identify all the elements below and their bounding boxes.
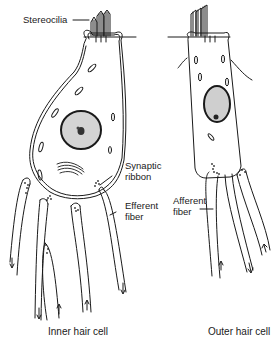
inner-synapses	[24, 180, 100, 254]
label-synaptic-ribbon-line1: Synaptic	[125, 161, 161, 171]
label-stereocilia: Stereocilia	[23, 15, 67, 25]
label-afferent-fiber-line2: fiber	[173, 207, 191, 217]
inner-nucleus	[61, 111, 101, 149]
outer-hair-cell	[168, 5, 270, 278]
label-efferent-fiber-line1: Efferent	[125, 201, 158, 211]
outer-nucleus	[204, 86, 230, 122]
inner-fibers	[10, 178, 126, 320]
outer-stereocilia	[191, 5, 215, 42]
hair-cell-diagram: Stereocilia Synaptic ribbon Efferent fib…	[0, 0, 278, 346]
caption-inner-hair-cell: Inner hair cell	[48, 326, 108, 337]
outer-fibers	[206, 169, 270, 278]
inner-arrows	[10, 258, 125, 319]
caption-outer-hair-cell: Outer hair cell	[208, 326, 270, 337]
inner-hair-cell	[10, 10, 136, 320]
label-efferent-fiber-line2: fiber	[125, 212, 143, 222]
label-afferent-fiber-line1: Afferent	[173, 196, 206, 206]
inner-golgi	[57, 162, 84, 175]
label-synaptic-ribbon-line2: ribbon	[125, 172, 151, 182]
